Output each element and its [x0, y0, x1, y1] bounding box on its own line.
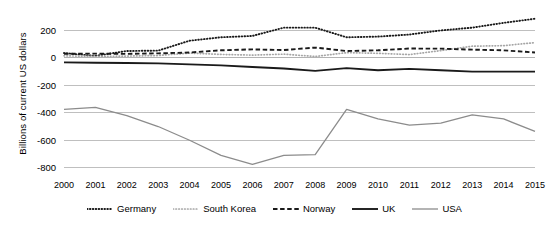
dashed-dark-swatch — [273, 204, 299, 214]
x-tick-label: 2012 — [431, 180, 451, 190]
legend-item-usa[interactable]: USA — [412, 203, 462, 214]
y-tick-label: -600 — [37, 134, 56, 145]
x-axis-tick-labels: 2000200120022003200420052006200720082009… — [64, 180, 535, 194]
line-chart: Billions of current US dollars 2000-200-… — [0, 0, 549, 228]
series-line-usa — [64, 107, 535, 164]
y-axis-tick-labels: 2000-200-400-600-800 — [0, 16, 60, 178]
series-line-uk — [64, 62, 535, 71]
x-tick-label: 2005 — [211, 180, 231, 190]
solid-dark-swatch — [352, 204, 378, 214]
dotted-dark-swatch — [87, 204, 113, 214]
x-tick-label: 2013 — [462, 180, 482, 190]
y-tick-label: -400 — [37, 107, 56, 118]
legend-item-germany[interactable]: Germany — [87, 203, 156, 214]
y-tick-label: 200 — [40, 24, 56, 35]
x-tick-label: 2007 — [274, 180, 294, 190]
dotted-light-swatch — [173, 204, 199, 214]
y-tick-label: -200 — [37, 79, 56, 90]
chart-legend: GermanySouth KoreaNorwayUKUSA — [0, 203, 549, 214]
plot-area — [64, 16, 535, 178]
x-tick-label: 2014 — [494, 180, 514, 190]
legend-label: Norway — [303, 203, 335, 214]
legend-label: South Korea — [203, 203, 256, 214]
legend-item-uk[interactable]: UK — [352, 203, 395, 214]
legend-label: Germany — [117, 203, 156, 214]
x-tick-label: 2006 — [242, 180, 262, 190]
x-tick-label: 2010 — [368, 180, 388, 190]
y-tick-label: 0 — [51, 52, 56, 63]
x-tick-label: 2011 — [400, 180, 419, 190]
x-tick-label: 2015 — [525, 180, 545, 190]
legend-label: USA — [442, 203, 462, 214]
legend-item-norway[interactable]: Norway — [273, 203, 335, 214]
y-tick-label: -800 — [37, 162, 56, 173]
series-line-norway — [64, 48, 535, 54]
series-lines — [64, 16, 535, 178]
x-tick-label: 2003 — [148, 180, 168, 190]
x-tick-label: 2009 — [337, 180, 357, 190]
x-tick-label: 2004 — [180, 180, 200, 190]
x-tick-label: 2008 — [305, 180, 325, 190]
x-tick-label: 2000 — [54, 180, 74, 190]
legend-item-south-korea[interactable]: South Korea — [173, 203, 256, 214]
solid-light-swatch — [412, 204, 438, 214]
x-tick-label: 2001 — [85, 180, 105, 190]
x-tick-label: 2002 — [117, 180, 137, 190]
legend-label: UK — [382, 203, 395, 214]
